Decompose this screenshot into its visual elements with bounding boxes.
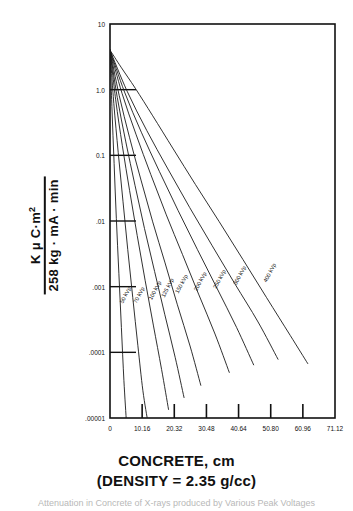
x-axis-tick-label: 20.32	[166, 425, 183, 432]
y-axis-label-denominator: 258 kg · mA · min	[46, 176, 61, 294]
curve-label: 300 kVp	[232, 265, 247, 286]
curve-label: 70 kVp	[132, 286, 145, 304]
curve-label: 150 kVp	[174, 273, 189, 294]
plot-frame	[110, 24, 335, 418]
y-axis-tick-label: .001	[92, 284, 105, 291]
y-axis-tick-label: .0001	[89, 349, 106, 356]
attenuation-curve	[110, 50, 229, 372]
y-axis-tick-label: 10	[98, 21, 106, 28]
curve-label: 400 kVp	[262, 262, 277, 283]
y-axis-numerator-text: K μ C·m	[28, 212, 43, 264]
x-axis-subtitle: (DENSITY = 2.35 g/cc)	[0, 472, 353, 489]
axes-layer	[110, 24, 335, 418]
x-axis-tick-label: 71.12	[327, 425, 344, 432]
y-axis-label-numerator: K μ C·m2	[28, 203, 44, 266]
curve-labels-layer: 50 kVp70 kVp100 kVp125 kVp150 kVp200 kVp…	[119, 262, 278, 304]
x-axis-tick-label: 40.64	[230, 425, 247, 432]
y-axis-numerator-exponent: 2	[27, 206, 37, 211]
x-axis-tick-label: 30.48	[198, 425, 215, 432]
x-axis-tick-label: 50.80	[263, 425, 280, 432]
y-axis-tick-label: 1.0	[96, 87, 105, 94]
x-axis-tick-label: 60.96	[295, 425, 312, 432]
curves-layer	[110, 50, 308, 423]
attenuation-curve	[110, 50, 278, 359]
attenuation-curve	[110, 50, 148, 423]
curve-label: 50 kVp	[119, 286, 132, 304]
y-axis-label: K μ C·m2 258 kg · mA · min	[14, 150, 74, 320]
curve-label: 100 kVp	[147, 280, 162, 301]
x-axis-tick-label: 0	[108, 425, 112, 432]
attenuation-curve	[110, 50, 126, 423]
x-axis-title: CONCRETE, cm	[0, 452, 353, 469]
y-axis-tick-label: .00001	[85, 415, 105, 422]
curve-label: 200 kVp	[193, 271, 208, 292]
y-axis-tick-label: 0.1	[96, 152, 105, 159]
x-axis-tick-label: 10.16	[134, 425, 151, 432]
figure-caption-partial: Attenuation in Concrete of X-rays produc…	[0, 498, 353, 508]
curve-label: 250 kVp	[212, 269, 227, 290]
y-axis-tick-label: .01	[96, 218, 105, 225]
